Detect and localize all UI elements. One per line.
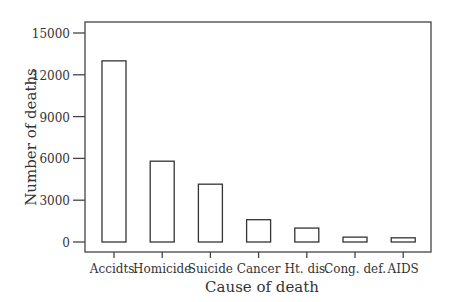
bar bbox=[247, 220, 271, 242]
bar-chart: 03000600090001200015000 Accidts.Homicide… bbox=[0, 0, 451, 302]
x-tick-label: Cong. def. bbox=[324, 262, 386, 276]
bars bbox=[102, 61, 415, 242]
bar bbox=[102, 61, 126, 242]
y-tick-label: 15000 bbox=[32, 27, 70, 41]
x-axis-title: Cause of death bbox=[205, 278, 319, 296]
x-tick-label: Ht. dis. bbox=[285, 262, 329, 276]
y-tick-label: 3000 bbox=[39, 194, 70, 208]
plot-frame bbox=[85, 22, 431, 252]
y-tick-label: 0 bbox=[62, 236, 70, 250]
bar bbox=[295, 228, 319, 242]
x-axis: Accidts.HomicideSuicideCancerHt. dis.Con… bbox=[89, 252, 419, 276]
bar bbox=[198, 184, 222, 242]
bar bbox=[391, 238, 415, 242]
x-tick-label: Cancer bbox=[237, 262, 281, 276]
x-tick-label: Suicide bbox=[188, 262, 233, 276]
bar bbox=[343, 237, 367, 242]
x-tick-label: Homicide bbox=[133, 262, 191, 276]
y-axis-title: Number of deaths bbox=[22, 68, 40, 206]
bar bbox=[150, 161, 174, 242]
x-tick-label: AIDS bbox=[387, 262, 419, 276]
x-tick-label: Accidts. bbox=[89, 262, 138, 276]
y-tick-label: 9000 bbox=[39, 111, 70, 125]
y-tick-label: 6000 bbox=[39, 152, 70, 166]
